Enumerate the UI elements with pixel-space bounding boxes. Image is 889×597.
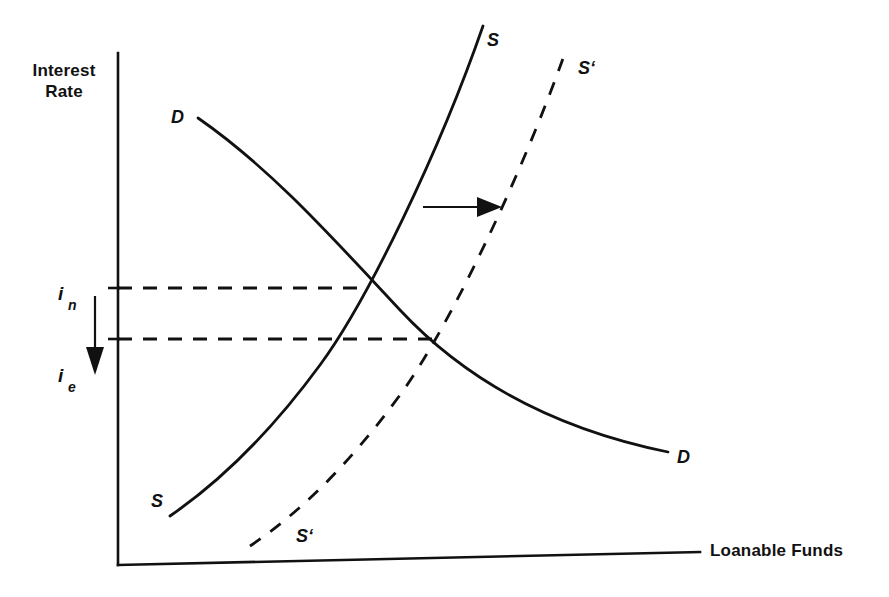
diagram-canvas: Interest Rate Loanable Funds i n i e D D… — [0, 0, 889, 597]
supply-shift-label-top: S‘ — [578, 58, 596, 78]
supply-shift-label-bottom: S‘ — [296, 526, 314, 546]
y-axis-title-line1: Interest — [32, 61, 95, 80]
supply-curve-shifted — [250, 50, 566, 546]
demand-label-bottom: D — [677, 447, 690, 467]
supply-label-top: S — [487, 30, 499, 50]
demand-curve — [198, 118, 668, 452]
x-axis-line — [118, 552, 700, 565]
loanable-funds-diagram: Interest Rate Loanable Funds i n i e D D… — [0, 0, 889, 597]
nominal-rate-label: i n — [58, 283, 77, 313]
equilibrium-rate-label: i e — [58, 365, 76, 395]
nominal-rate-subscript: n — [68, 297, 77, 313]
x-axis-title: Loanable Funds — [710, 541, 843, 560]
y-axis-title-line2: Rate — [45, 82, 83, 101]
rate-down-arrow — [86, 296, 104, 375]
demand-label-top: D — [171, 107, 184, 127]
equilibrium-rate-base: i — [58, 365, 64, 386]
supply-shift-right-arrow — [423, 197, 502, 217]
supply-label-bottom: S — [151, 491, 163, 511]
equilibrium-rate-subscript: e — [68, 379, 76, 395]
nominal-rate-base: i — [58, 283, 64, 304]
supply-curve — [170, 26, 483, 516]
